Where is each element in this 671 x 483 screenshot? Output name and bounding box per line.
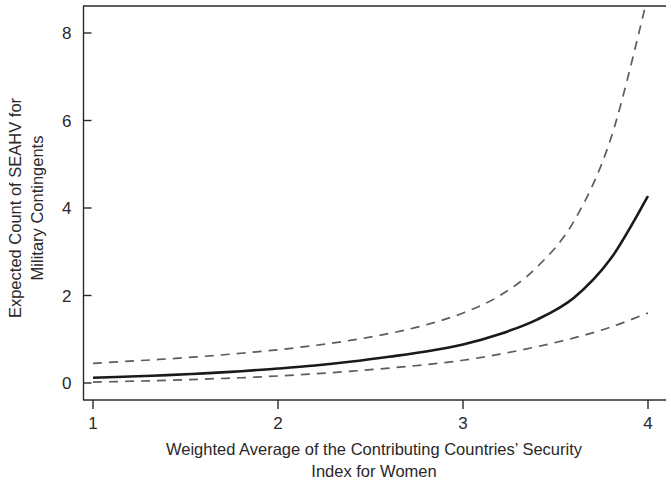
y-tick-label: 2 xyxy=(62,287,71,306)
x-tick-label: 1 xyxy=(88,414,97,433)
y-tick-label: 8 xyxy=(62,24,71,43)
y-tick-label: 6 xyxy=(62,112,71,131)
x-tick-label: 3 xyxy=(458,414,467,433)
x-axis-title-line2: Index for Women xyxy=(311,462,436,480)
y-axis-title-line2: Military Contingents xyxy=(28,136,46,281)
chart-background xyxy=(0,0,671,483)
y-tick-label: 4 xyxy=(62,199,71,218)
x-axis-title-line1: Weighted Average of the Contributing Cou… xyxy=(166,440,583,458)
chart-figure: 02468 1234 Weighted Average of the Contr… xyxy=(0,0,671,483)
x-tick-label: 4 xyxy=(643,414,652,433)
expected-count-line-chart: 02468 1234 Weighted Average of the Contr… xyxy=(0,0,671,483)
y-tick-label: 0 xyxy=(62,374,71,393)
y-axis-title-line1: Expected Count of SEAHV for xyxy=(6,97,24,318)
x-tick-label: 2 xyxy=(273,414,282,433)
